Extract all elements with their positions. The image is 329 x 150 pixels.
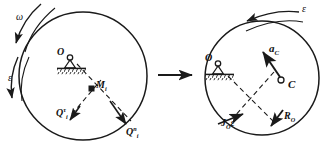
label-a-c: aC <box>269 43 279 57</box>
left-pin-support <box>57 55 86 74</box>
label-epsilon-left: ε <box>8 73 12 83</box>
left-dashed-radius <box>77 64 131 121</box>
label-q-n-sub: i <box>137 132 139 139</box>
label-q-tau: Qτi <box>56 107 68 121</box>
epsilon-arc-arrow <box>11 57 18 98</box>
centre-of-mass-marker <box>278 77 284 83</box>
mass-point-marker <box>89 86 95 92</box>
label-q-tau-sup: τ <box>63 106 66 113</box>
label-j-o-tail: ε <box>230 117 234 128</box>
label-q-n: Qni <box>126 126 138 140</box>
r-o-vector <box>271 110 283 126</box>
label-o-left: O <box>57 47 64 57</box>
left-disc-outline <box>19 12 147 140</box>
left-disc-group <box>11 4 147 140</box>
omega-arc-arrow <box>16 4 41 43</box>
label-mass-point-main: M <box>96 79 105 90</box>
figure-canvas: ω ε O Mi Qτi Qni ε O aC C JOε RO <box>0 0 329 150</box>
label-o-right: O <box>205 53 212 63</box>
right-dashed-line-b <box>233 72 274 118</box>
label-r-o: RO <box>284 111 295 123</box>
diagram-vector-layer <box>0 0 329 150</box>
omega-arc-guide <box>25 8 55 52</box>
label-mass-point-sub: i <box>105 85 107 92</box>
label-c-point: C <box>288 79 295 90</box>
label-j-o-epsilon: JOε <box>221 118 235 130</box>
right-epsilon-arc-arrow <box>247 11 299 21</box>
label-epsilon-right: ε <box>302 4 306 14</box>
q-tau-vector <box>70 106 80 120</box>
right-epsilon-arc-guide <box>246 21 303 31</box>
label-q-n-sup: n <box>133 125 136 132</box>
label-q-tau-sub: i <box>66 113 68 120</box>
label-mass-point: Mi <box>96 80 107 92</box>
label-omega: ω <box>16 12 23 22</box>
label-a-c-sub: C <box>275 49 280 56</box>
label-r-o-sub: O <box>291 116 295 123</box>
q-n-vector <box>110 101 126 124</box>
label-r-o-main: R <box>284 110 291 121</box>
